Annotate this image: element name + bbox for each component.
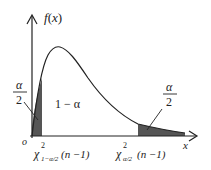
chi-square-diagram: f(x) o x 1 − α α 2 α 2 χ 2 1−α/2 (n −1) …: [0, 0, 211, 170]
left-quantile-label: χ 2 1−α/2 (n −1): [33, 141, 90, 163]
left-tail-denominator: 2: [16, 93, 22, 107]
right-quantile-label: χ 2 α/2 (n −1): [115, 141, 166, 163]
center-area-label: 1 − α: [55, 97, 81, 111]
density-curve: [32, 47, 185, 136]
y-axis-label: f(x): [44, 10, 62, 25]
svg-text:(n −1): (n −1): [61, 148, 90, 161]
svg-text:1−α/2: 1−α/2: [41, 155, 59, 163]
left-tail-numerator: α: [16, 78, 23, 92]
svg-text:2: 2: [123, 141, 127, 150]
svg-text:χ: χ: [115, 147, 122, 161]
svg-text:χ: χ: [33, 147, 40, 161]
svg-text:2: 2: [41, 141, 45, 150]
origin-label: o: [22, 136, 27, 147]
x-axis-label: x: [182, 139, 188, 151]
svg-text:α/2: α/2: [123, 155, 133, 163]
right-tail-pointer: [147, 109, 162, 130]
svg-text:(n −1): (n −1): [137, 148, 166, 161]
diagram-canvas: f(x) o x 1 − α α 2 α 2 χ 2 1−α/2 (n −1) …: [0, 0, 211, 170]
right-tail-numerator: α: [166, 80, 173, 94]
right-tail-denominator: 2: [166, 95, 172, 109]
